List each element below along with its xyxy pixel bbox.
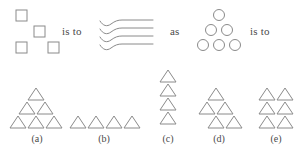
analogy-question-canvas: is to as is to — [0, 0, 298, 153]
option-a-triangles-svg — [6, 84, 68, 130]
option-e-triangles-svg — [256, 84, 296, 130]
triangle-shape — [217, 102, 233, 114]
wavy-line — [100, 36, 153, 42]
wavy-lines-svg — [98, 16, 156, 52]
connector-as: as — [170, 25, 180, 37]
triangle-shape — [199, 102, 215, 114]
connector-is-to-second: is to — [250, 25, 270, 37]
triangle-shape — [106, 116, 122, 128]
option-c-triangles-svg — [152, 68, 184, 130]
circle-shape — [214, 40, 225, 51]
option-e-figure[interactable] — [256, 84, 296, 130]
triangle-shape — [160, 84, 176, 96]
option-d-triangles-svg — [196, 84, 246, 130]
triangle-shape — [208, 116, 224, 128]
circle-shape — [222, 25, 233, 36]
triangle-shape — [88, 116, 104, 128]
triangle-shape — [28, 116, 44, 128]
wavy-line — [100, 44, 153, 50]
term-b-wavy-lines — [98, 16, 156, 52]
triangle-shape — [277, 116, 293, 128]
square-shape — [16, 42, 27, 53]
option-a-figure[interactable] — [6, 84, 68, 130]
wavy-line — [100, 20, 153, 26]
option-b-label[interactable]: (b) — [84, 133, 124, 144]
triangle-shape — [277, 88, 293, 100]
triangle-shape — [160, 70, 176, 82]
circle-shape — [214, 10, 225, 21]
option-c-label[interactable]: (c) — [148, 133, 188, 144]
square-shape — [48, 42, 59, 53]
triangle-shape — [28, 88, 44, 100]
triangle-shape — [19, 102, 35, 114]
option-b-figure[interactable] — [68, 110, 144, 130]
term-c-triangular-circles — [195, 4, 243, 58]
circle-shape — [206, 25, 217, 36]
square-shape — [16, 10, 27, 21]
option-e-label[interactable]: (e) — [256, 133, 296, 144]
triangle-shape — [160, 98, 176, 110]
wavy-line — [100, 28, 153, 34]
triangle-shape — [259, 88, 275, 100]
option-a-label[interactable]: (a) — [16, 133, 58, 144]
triangle-shape — [70, 116, 86, 128]
triangle-shape — [208, 88, 224, 100]
circle-shape — [198, 40, 209, 51]
connector-is-to-first: is to — [62, 25, 82, 37]
square-shape — [34, 26, 45, 37]
triangle-shape — [226, 116, 242, 128]
option-b-triangles-svg — [68, 110, 144, 130]
triangle-shape — [46, 116, 62, 128]
circle-shape — [230, 40, 241, 51]
option-c-figure[interactable] — [152, 68, 184, 130]
option-d-label[interactable]: (d) — [199, 133, 239, 144]
triangle-shape — [160, 112, 176, 124]
triangle-shape — [10, 116, 26, 128]
triangle-shape — [37, 102, 53, 114]
option-d-figure[interactable] — [196, 84, 246, 130]
triangle-shape — [124, 116, 140, 128]
triangle-shape — [277, 102, 293, 114]
triangle-shape — [259, 102, 275, 114]
triangular-circles-svg — [195, 4, 243, 58]
triangle-shape — [259, 116, 275, 128]
